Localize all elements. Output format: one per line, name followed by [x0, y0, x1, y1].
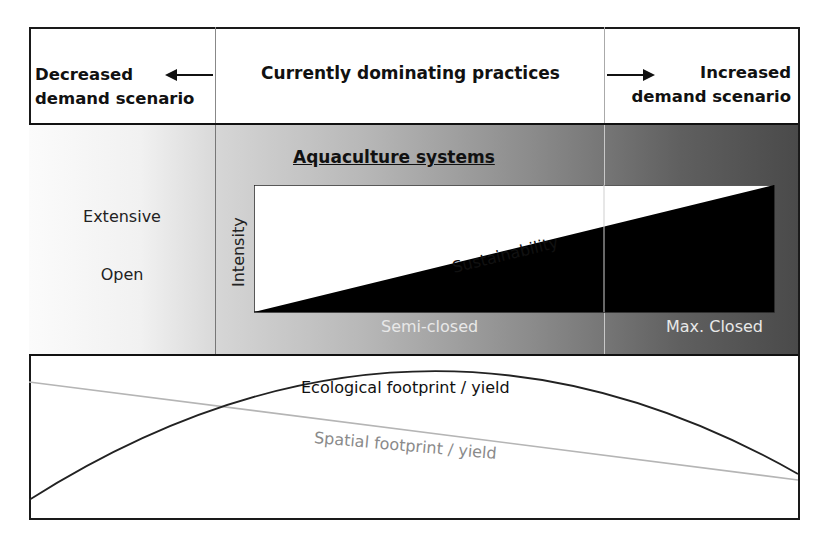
extensive-label: Extensive [29, 207, 215, 226]
semi-closed-label: Semi-closed [381, 317, 478, 336]
decreased-line2: demand scenario [35, 87, 194, 111]
arrow-left-icon [167, 74, 213, 76]
footprint-panel: Ecological footprint / yield Spatial foo… [29, 356, 798, 518]
header-decreased-cell: Decreased demand scenario [29, 27, 215, 123]
systems-band: Extensive Open Aquaculture systems Susta… [29, 123, 798, 356]
aquaculture-systems-title: Aquaculture systems [293, 147, 495, 167]
extensive-open-cell: Extensive Open [29, 125, 216, 354]
increased-line1: Increased [632, 61, 791, 85]
current-practices-title: Currently dominating practices [216, 61, 605, 85]
intensity-sustainability-chart: Sustainability [254, 185, 776, 315]
increased-demand-label: Increased demand scenario [632, 61, 791, 109]
header-increased-cell: Increased demand scenario [604, 27, 799, 123]
open-label: Open [29, 265, 215, 284]
max-closed-label: Max. Closed [666, 317, 763, 336]
increased-line2: demand scenario [632, 85, 791, 109]
header-current-cell: Currently dominating practices [215, 27, 605, 123]
ecological-footprint-label: Ecological footprint / yield [301, 378, 510, 397]
header-row: Decreased demand scenario Currently domi… [29, 27, 798, 123]
intensity-axis-label: Intensity [229, 217, 248, 287]
